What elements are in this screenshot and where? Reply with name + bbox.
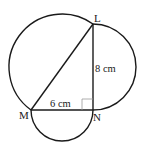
vertex-label-N: N [93, 111, 101, 123]
right-angle-marker [82, 99, 93, 110]
geometry-figure: L M N 8 cm 6 cm [0, 0, 142, 155]
vertex-label-L: L [94, 12, 101, 24]
vertex-label-M: M [19, 109, 29, 121]
semicircle-on-MN [31, 110, 93, 141]
measure-label-MN: 6 cm [50, 98, 71, 109]
measure-label-LN: 8 cm [95, 63, 116, 74]
semicircle-on-LM [9, 14, 93, 110]
